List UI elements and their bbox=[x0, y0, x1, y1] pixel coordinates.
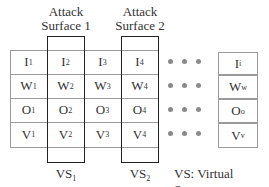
cell-o3: O3 bbox=[84, 98, 121, 122]
cell-o2: O2 bbox=[47, 98, 84, 122]
attack-surface-1-label: Attack Surface 1 bbox=[38, 5, 94, 33]
cell-v2: V2 bbox=[47, 122, 84, 147]
vs1-label: VS1 bbox=[47, 166, 85, 183]
dot-icon bbox=[182, 131, 187, 136]
cell-w4: W4 bbox=[121, 74, 158, 98]
cell-w2: W2 bbox=[47, 74, 84, 98]
dot-icon bbox=[196, 59, 201, 64]
dot-icon bbox=[168, 59, 173, 64]
dot-icon bbox=[182, 107, 187, 112]
cell-o1: O1 bbox=[10, 98, 47, 122]
cell-ww-text: Ww bbox=[218, 75, 258, 99]
attack-surface-2-line1: Attack bbox=[112, 5, 168, 19]
dot-icon bbox=[168, 107, 173, 112]
cell-v4: V4 bbox=[121, 122, 158, 147]
dot-icon bbox=[168, 131, 173, 136]
attack-surface-2-label: Attack Surface 2 bbox=[112, 5, 168, 33]
cell-i1: I1 bbox=[10, 50, 47, 74]
dot-icon bbox=[168, 83, 173, 88]
cell-i4: I4 bbox=[121, 50, 158, 74]
cell-o4: O4 bbox=[121, 98, 158, 122]
cell-w3: W3 bbox=[84, 74, 121, 98]
cell-w1: W1 bbox=[10, 74, 47, 98]
dot-icon bbox=[196, 83, 201, 88]
cell-v3: V3 bbox=[84, 122, 121, 147]
attack-surface-2-line2: Surface 2 bbox=[112, 19, 168, 33]
cell-i3: I3 bbox=[84, 50, 121, 74]
cell-i2: I2 bbox=[47, 50, 84, 74]
dot-icon bbox=[196, 131, 201, 136]
cell-oo-text: Oo bbox=[218, 99, 258, 123]
dot-icon bbox=[182, 83, 187, 88]
attack-surface-1-line1: Attack bbox=[38, 5, 94, 19]
cell-v1: V1 bbox=[10, 122, 47, 147]
cell-ii-text: Ii bbox=[218, 52, 258, 75]
dot-icon bbox=[196, 107, 201, 112]
vs2-label: VS2 bbox=[121, 166, 159, 183]
cell-vv-text: Vv bbox=[218, 123, 258, 148]
legend-virtual-server: VS: Virtual Server bbox=[174, 166, 269, 187]
dot-icon bbox=[182, 59, 187, 64]
attack-surface-1-line2: Surface 1 bbox=[38, 19, 94, 33]
